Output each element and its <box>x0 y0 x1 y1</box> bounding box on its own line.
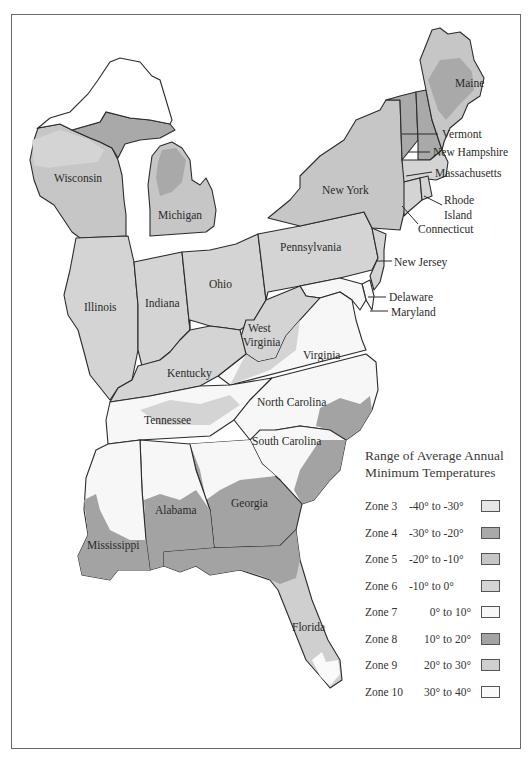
legend-swatch <box>481 500 500 512</box>
label-tennessee: Tennessee <box>144 414 191 426</box>
label-pennsylvania: Pennsylvania <box>280 241 341 254</box>
legend-temperature-range: -30° to -20° <box>409 527 477 539</box>
legend-swatch <box>481 580 500 592</box>
legend-swatch <box>481 553 500 565</box>
legend-zone-label: Zone 8 <box>365 633 409 645</box>
label-new-hampshire: New Hampshire <box>433 146 508 159</box>
legend-swatch <box>481 659 500 671</box>
label-delaware: Delaware <box>389 291 433 303</box>
legend-zone-label: Zone 4 <box>365 527 409 539</box>
state-connecticut <box>404 178 422 216</box>
label-west-virginia: West <box>248 322 272 334</box>
legend-title-line2: Minimum Temperatures <box>365 464 525 481</box>
label-mississippi: Mississippi <box>87 539 139 552</box>
legend-zone-label: Zone 7 <box>365 606 409 618</box>
state-illinois <box>64 236 138 400</box>
label-vermont: Vermont <box>442 128 482 140</box>
legend-row: Zone 6-10° to 0° <box>365 573 525 600</box>
legend-zone-label: Zone 9 <box>365 659 409 671</box>
label-new-york: New York <box>322 184 369 196</box>
label-rhode-island-2: Island <box>444 209 472 221</box>
legend-row: Zone 70° to 10° <box>365 599 525 626</box>
legend-temperature-range: 10° to 20° <box>409 633 477 645</box>
legend-temperature-range: -10° to 0° <box>409 580 477 592</box>
label-alabama: Alabama <box>155 504 197 516</box>
label-south-carolina: South Carolina <box>252 435 321 447</box>
label-wisconsin: Wisconsin <box>54 172 102 184</box>
label-florida: Florida <box>292 621 325 633</box>
legend-row: Zone 4-30° to -20° <box>365 520 525 547</box>
label-massachusetts: Massachusetts <box>435 167 502 179</box>
legend-temperature-range: 0° to 10° <box>409 606 477 618</box>
legend-row: Zone 920° to 30° <box>365 652 525 679</box>
legend-swatch <box>481 686 500 698</box>
legend-row: Zone 1030° to 40° <box>365 679 525 706</box>
label-maine: Maine <box>455 77 484 89</box>
label-west-virginia-2: Virginia <box>243 336 280 349</box>
legend-zone-label: Zone 6 <box>365 580 409 592</box>
label-connecticut: Connecticut <box>418 223 474 235</box>
legend-swatch <box>481 527 500 539</box>
label-georgia: Georgia <box>231 497 268 510</box>
legend-swatch <box>481 606 500 618</box>
label-kentucky: Kentucky <box>167 367 212 380</box>
legend-title-line1: Range of Average Annual <box>365 447 525 464</box>
legend: Range of Average Annual Minimum Temperat… <box>365 447 525 705</box>
legend-temperature-range: 30° to 40° <box>409 686 477 698</box>
legend-zone-label: Zone 10 <box>365 686 409 698</box>
label-new-jersey: New Jersey <box>394 256 448 269</box>
label-maryland: Maryland <box>391 306 436 319</box>
label-indiana: Indiana <box>145 297 179 309</box>
label-virginia: Virginia <box>303 349 340 362</box>
state-new-york <box>268 100 408 230</box>
legend-zone-label: Zone 5 <box>365 553 409 565</box>
leader-rhode-island <box>424 196 442 205</box>
legend-temperature-range: -40° to -30° <box>409 500 477 512</box>
label-north-carolina: North Carolina <box>257 396 326 408</box>
legend-temperature-range: -20° to -10° <box>409 553 477 565</box>
legend-swatch <box>481 633 500 645</box>
label-michigan: Michigan <box>158 209 202 222</box>
label-illinois: Illinois <box>84 301 117 313</box>
legend-title: Range of Average Annual Minimum Temperat… <box>365 447 525 481</box>
legend-row: Zone 810° to 20° <box>365 626 525 653</box>
label-ohio: Ohio <box>209 278 232 290</box>
legend-row: Zone 5-20° to -10° <box>365 546 525 573</box>
legend-temperature-range: 20° to 30° <box>409 659 477 671</box>
legend-zone-label: Zone 3 <box>365 500 409 512</box>
label-rhode-island: Rhode <box>444 194 474 206</box>
legend-row: Zone 3-40° to -30° <box>365 493 525 520</box>
legend-rows: Zone 3-40° to -30°Zone 4-30° to -20°Zone… <box>365 493 525 705</box>
